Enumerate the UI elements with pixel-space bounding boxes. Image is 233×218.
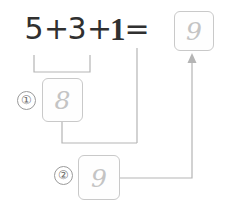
step-marker-2: ② bbox=[54, 166, 73, 185]
equation-addend-1: 5 bbox=[24, 14, 44, 44]
bracket-under-5-plus-3 bbox=[34, 55, 90, 72]
equation-addend-2: 3 bbox=[67, 14, 87, 44]
step2-answer-box[interactable]: 9 bbox=[78, 155, 120, 200]
step1-answer-box[interactable]: 8 bbox=[42, 78, 83, 122]
equation-equals-sign: = bbox=[124, 14, 150, 44]
result-answer-box[interactable]: 9 bbox=[174, 11, 214, 51]
arrowhead-to-result bbox=[188, 53, 197, 63]
step1-answer-value: 8 bbox=[43, 88, 82, 113]
connector-step2-to-result bbox=[120, 60, 192, 178]
connector-step1-to-one bbox=[62, 122, 137, 143]
result-answer-value: 9 bbox=[175, 19, 213, 44]
equation-operator-2: + bbox=[87, 14, 110, 44]
equation-addend-3: 1 bbox=[110, 14, 124, 45]
step-marker-1: ① bbox=[17, 91, 36, 110]
equation-row: 5 + 3 + 1 = bbox=[24, 10, 150, 48]
equation-operator-1: + bbox=[44, 14, 67, 44]
worksheet-canvas: 5 + 3 + 1 = 9 8 9 ① ② bbox=[0, 0, 233, 218]
step2-answer-value: 9 bbox=[79, 165, 119, 190]
